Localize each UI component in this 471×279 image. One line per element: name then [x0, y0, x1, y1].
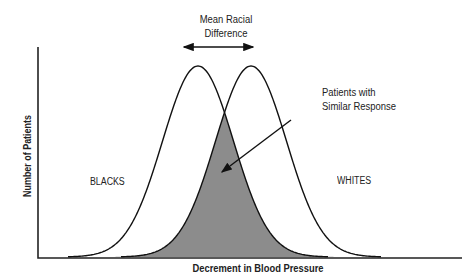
overlap-callout-label: Patients with Similar Response	[322, 85, 396, 113]
x-axis-label: Decrement in Blood Pressure	[173, 262, 343, 274]
chart-title: Mean Racial Difference	[167, 12, 286, 40]
series-label-whites: WHITES	[337, 175, 371, 186]
chart-canvas	[0, 0, 471, 279]
series-label-blacks: BLACKS	[90, 176, 125, 187]
y-axis-label: Number of Patients	[21, 109, 33, 203]
